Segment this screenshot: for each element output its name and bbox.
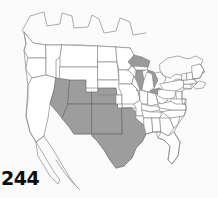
canada-outline-west <box>22 12 146 35</box>
state-montana <box>60 45 98 67</box>
state-oklahoma-panhandle <box>118 104 122 108</box>
state-new-york <box>160 80 186 91</box>
state-idaho <box>46 45 62 78</box>
state-arizona-shaded <box>62 104 92 134</box>
state-north-carolina <box>160 110 186 118</box>
state-california <box>26 75 56 142</box>
state-indiana <box>140 90 148 104</box>
state-oregon <box>26 58 46 78</box>
state-michigan-lower <box>142 72 154 92</box>
state-washington <box>24 32 46 58</box>
state-mississippi <box>144 118 153 134</box>
state-maine <box>192 64 204 79</box>
state-new-mexico-shaded <box>92 104 122 134</box>
state-north-dakota <box>98 46 117 62</box>
state-vermont <box>182 73 187 80</box>
mexico-west-coast <box>44 136 76 186</box>
map-figure: 244 <box>0 0 218 198</box>
state-group-northeast <box>158 64 204 104</box>
state-group-pacific <box>26 75 56 142</box>
state-south-dakota <box>98 62 119 80</box>
state-colorado-shaded <box>92 88 118 104</box>
baja-california-outline <box>36 142 60 184</box>
state-alabama <box>152 118 161 132</box>
state-michigan-upper <box>134 66 148 70</box>
figure-number-label: 244 <box>1 169 39 188</box>
